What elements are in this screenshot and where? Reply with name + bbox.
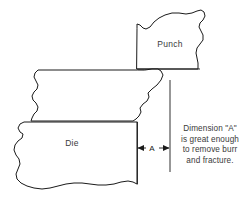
note-line-2: is great enough <box>173 135 247 146</box>
dimension-arrow-right-icon <box>163 145 170 151</box>
die-label: Die <box>65 138 79 148</box>
dimension-note: Dimension "A" is great enough to remove … <box>173 124 247 166</box>
note-line-3: to remove burr <box>173 145 247 156</box>
diagram-svg: Punch Die A <box>0 0 248 204</box>
punch-label: Punch <box>157 39 183 49</box>
diagram-canvas: Punch Die A Dimension "A" is great enoug… <box>0 0 248 204</box>
note-line-4: and fracture. <box>173 156 247 167</box>
die-outline <box>14 122 137 189</box>
strip-outline <box>31 69 163 121</box>
dimension-label: A <box>149 144 155 153</box>
dimension-arrow-left-icon <box>138 145 145 151</box>
note-line-1: Dimension "A" <box>173 124 247 135</box>
